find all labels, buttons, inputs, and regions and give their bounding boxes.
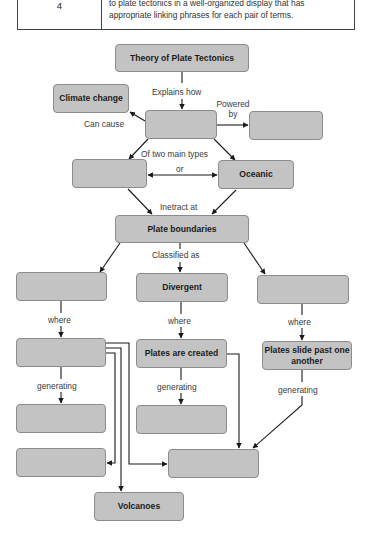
node-volcanoes: Volcanoes bbox=[94, 492, 184, 521]
node-plates-are-created: Plates are created bbox=[136, 339, 227, 368]
node-mid-generating-blank[interactable] bbox=[136, 405, 227, 434]
link-generating-mid: generating bbox=[157, 382, 197, 392]
node-oceanic: Oceanic bbox=[218, 160, 294, 189]
link-where-left: where bbox=[48, 315, 71, 325]
link-of-two-main-types: Of two main types bbox=[141, 149, 208, 159]
link-powered-by: Powered by bbox=[213, 99, 253, 119]
link-generating-left: generating bbox=[37, 381, 77, 391]
node-left-extra-blank[interactable] bbox=[16, 448, 106, 477]
node-plate-boundaries: Plate boundaries bbox=[115, 215, 249, 243]
node-divergent: Divergent bbox=[136, 273, 228, 302]
link-interact-at: Inetract at bbox=[160, 202, 197, 212]
node-climate-change: Climate change bbox=[53, 84, 129, 113]
node-left-generating-blank[interactable] bbox=[16, 404, 106, 433]
node-plate-type-blank[interactable] bbox=[72, 159, 147, 188]
node-power-source-blank[interactable] bbox=[249, 111, 323, 140]
link-or: or bbox=[176, 164, 183, 174]
link-classified-as: Classified as bbox=[152, 250, 199, 260]
node-plate-motion-blank[interactable] bbox=[145, 110, 217, 139]
link-explains-how: Explains how bbox=[152, 87, 201, 97]
node-boundary-type-left-blank[interactable] bbox=[16, 272, 107, 301]
link-where-right: where bbox=[288, 317, 311, 327]
node-theory-of-plate-tectonics: Theory of Plate Tectonics bbox=[115, 44, 249, 72]
link-powered-by-line2: by bbox=[213, 109, 253, 119]
node-shared-result-blank[interactable] bbox=[168, 449, 259, 478]
link-where-mid: where bbox=[168, 316, 191, 326]
link-generating-right: generating bbox=[278, 385, 318, 395]
node-boundary-type-right-blank[interactable] bbox=[257, 275, 349, 304]
node-left-where-blank[interactable] bbox=[16, 338, 106, 367]
node-plates-slide-past: Plates slide past one another bbox=[262, 341, 352, 370]
link-can-cause: Can cause bbox=[84, 119, 124, 129]
link-powered-by-line1: Powered bbox=[213, 99, 253, 109]
